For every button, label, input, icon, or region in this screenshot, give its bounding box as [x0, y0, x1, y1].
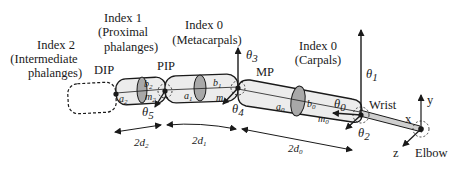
label-theta2: θ2: [358, 126, 370, 142]
label-index2-subtitle: (Intermediate: [10, 52, 78, 66]
label-theta1: θ1: [366, 67, 378, 83]
joint-dip: [113, 91, 118, 96]
label-index0-carpals-title: Index 0: [299, 39, 337, 53]
label-theta3: θ3: [246, 48, 258, 64]
label-index0-metacarpals-title: Index 0: [185, 18, 223, 32]
dimension-d2: [115, 125, 161, 132]
label-d1: 2d1: [192, 134, 207, 148]
label-dip: DIP: [94, 63, 114, 77]
label-y-axis: y: [427, 93, 434, 107]
label-index0-metacarpals-subtitle: (Metacarpals): [172, 33, 241, 47]
label-index2-subtitle2: phalanges): [28, 66, 82, 80]
label-d0: 2d0: [288, 142, 303, 156]
label-d2: 2d2: [134, 136, 149, 150]
label-index1-subtitle2: phalanges): [104, 40, 158, 54]
label-index1-title: Index 1: [104, 11, 142, 25]
hand-kinematic-diagram: Index 2 (Intermediate phalanges) Index 1…: [0, 0, 467, 171]
label-index2-title: Index 2: [37, 38, 75, 52]
label-index0-carpals-subtitle: (Carpals): [295, 53, 342, 67]
label-wrist: Wrist: [369, 98, 397, 112]
label-pip: PIP: [157, 59, 175, 73]
dimension-d1: [167, 124, 236, 129]
label-index1-subtitle: (Proximal: [98, 25, 149, 39]
label-mp: MP: [256, 65, 274, 79]
segment-index2-dashed: [67, 82, 117, 114]
label-x-axis: x: [405, 112, 412, 126]
label-z-axis: z: [393, 146, 399, 160]
label-elbow: Elbow: [415, 146, 448, 160]
z-axis-arrow: [403, 129, 421, 146]
label-theta5: θ5: [142, 105, 154, 121]
